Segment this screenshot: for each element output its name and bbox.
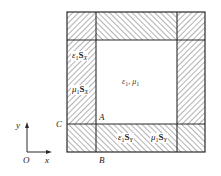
s-subscript: X <box>85 89 89 95</box>
point-a-label: A <box>99 113 105 122</box>
s-subscript: Y <box>130 137 133 143</box>
bottom-layer-label-eps: ε1SY <box>117 133 134 143</box>
left-layer-label-mu: μ1SX <box>71 85 89 95</box>
top-left-corner-layer <box>67 12 96 40</box>
bottom-right-corner-layer <box>177 124 205 152</box>
right-layer <box>177 40 205 124</box>
bottom-left-corner-layer <box>67 124 96 152</box>
top-right-corner-layer <box>177 12 205 40</box>
y-axis-arrow-icon <box>25 122 29 128</box>
point-b-label: B <box>99 156 105 165</box>
interior-label: ε1, μ1 <box>122 78 139 87</box>
mu-subscript: 1 <box>136 81 139 87</box>
separator: , <box>128 77 130 86</box>
x-axis-label: x <box>45 156 49 165</box>
top-layer <box>96 12 177 40</box>
origin-label: O <box>23 156 30 165</box>
left-layer-label-eps: ε1SX <box>71 51 88 61</box>
x-axis-arrow-icon <box>46 150 52 154</box>
y-axis-label: y <box>16 121 20 130</box>
s-subscript: Y <box>164 137 167 143</box>
pml-diagram: ε1SX μ1SX ε1, μ1 ε1SY μ1SY A B C y x O <box>0 0 221 176</box>
point-c-label: C <box>56 120 62 129</box>
bottom-layer-label-mu: μ1SY <box>150 133 168 143</box>
diagram-figure <box>0 0 221 176</box>
s-subscript: X <box>84 55 88 61</box>
